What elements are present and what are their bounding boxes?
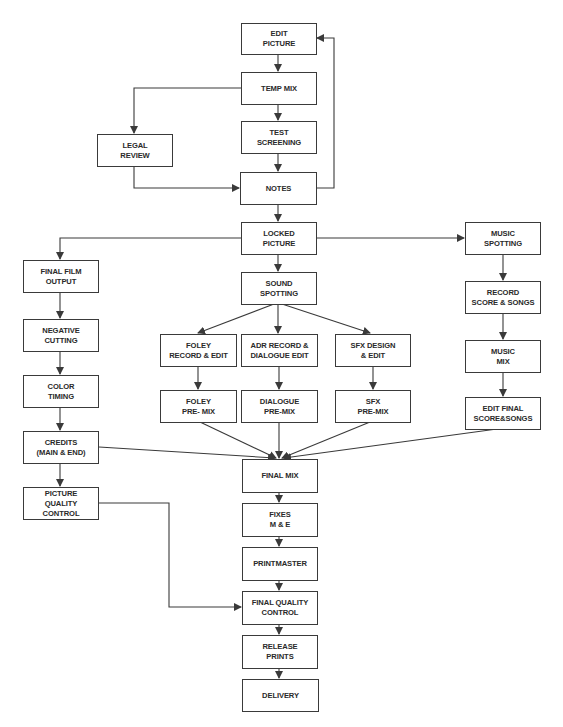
- node-sfx-design-edit: SFX DESIGN & EDIT: [335, 334, 411, 367]
- node-final-quality-control: FINAL QUALITY CONTROL: [242, 591, 318, 625]
- node-record-score-songs: RECORD SCORE & SONGS: [465, 281, 541, 314]
- node-color-timing: COLOR TIMING: [23, 375, 99, 408]
- edge-sound-to-foley: [198, 304, 274, 333]
- node-final-film-output: FINAL FILM OUTPUT: [23, 260, 99, 293]
- node-picture-quality-control: PICTURE QUALITY CONTROL: [23, 487, 99, 520]
- edge-legal-to-notes: [134, 166, 239, 188]
- edge-pqc-to-fqc: [99, 503, 241, 607]
- node-edit-picture: EDIT PICTURE: [241, 23, 317, 55]
- node-music-mix: MUSIC MIX: [465, 340, 541, 373]
- node-printmaster: PRINTMASTER: [242, 547, 318, 581]
- node-sound-spotting: SOUND SPOTTING: [241, 272, 317, 305]
- edge-credits-to-finalmix: [99, 447, 275, 458]
- node-final-mix: FINAL MIX: [242, 459, 318, 493]
- node-foley-premix: FOLEY PRE- MIX: [160, 390, 237, 423]
- node-foley-record-edit: FOLEY RECORD & EDIT: [160, 334, 237, 367]
- edge-foleypre-to-finalmix: [200, 422, 276, 458]
- node-notes: NOTES: [240, 172, 317, 205]
- node-negative-cutting: NEGATIVE CUTTING: [23, 319, 99, 352]
- node-delivery: DELIVERY: [242, 679, 319, 712]
- node-test-screening: TEST SCREENING: [241, 121, 317, 154]
- node-dialogue-premix: DIALOGUE PRE-MIX: [241, 390, 318, 423]
- edge-locked-to-filmout: [60, 238, 241, 259]
- node-legal-review: LEGAL REVIEW: [97, 134, 173, 167]
- node-adr-dialogue-edit: ADR RECORD & DIALOGUE EDIT: [241, 334, 318, 367]
- edge-sound-to-sfx: [282, 304, 370, 333]
- edge-notes-to-edit: [316, 38, 334, 188]
- node-temp-mix: TEMP MIX: [241, 72, 317, 105]
- node-fixes-me: FIXES M & E: [242, 503, 318, 537]
- node-sfx-premix: SFX PRE-MIX: [335, 390, 411, 423]
- edge-editfinal-to-finalmix: [284, 429, 497, 458]
- node-release-prints: RELEASE PRINTS: [242, 635, 318, 669]
- node-credits: CREDITS (MAIN & END): [23, 431, 99, 464]
- edge-temp-to-legal: [134, 88, 241, 133]
- node-locked-picture: LOCKED PICTURE: [241, 222, 317, 255]
- node-edit-final-score-songs: EDIT FINAL SCORE&SONGS: [465, 397, 541, 430]
- node-music-spotting: MUSIC SPOTTING: [465, 222, 541, 255]
